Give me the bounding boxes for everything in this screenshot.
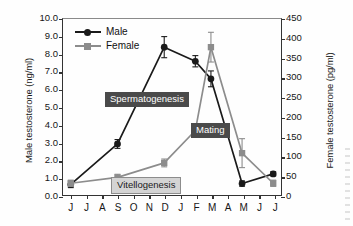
- right-tick-mark: [281, 118, 285, 119]
- right-tick-label: 300: [286, 71, 302, 82]
- scan-artifact: [345, 148, 350, 220]
- right-tick-label: 200: [286, 111, 302, 122]
- left-tick-label: 1.0: [45, 172, 58, 183]
- right-tick-mark: [281, 197, 285, 198]
- left-tick-label: 7.0: [45, 65, 58, 76]
- x-tick-mark: [212, 195, 213, 199]
- data-point-marker: [192, 58, 199, 65]
- left-tick-label: 2.0: [45, 154, 58, 165]
- data-point-marker: [208, 75, 215, 82]
- right-axis-title: Female testosterone (pg/ml): [324, 31, 335, 191]
- left-tick-label: 4.0: [45, 119, 58, 130]
- x-tick-label: S: [115, 202, 122, 213]
- x-tick-mark: [134, 195, 135, 199]
- right-tick-label: 400: [286, 32, 302, 43]
- left-tick-label: 8.0: [45, 48, 58, 59]
- left-tick-mark: [59, 197, 63, 198]
- left-tick-label: 9.0: [45, 30, 58, 41]
- legend-label-male: Male: [106, 25, 128, 39]
- left-tick-label: 3.0: [45, 137, 58, 148]
- right-tick-label: 350: [286, 52, 302, 63]
- legend-label-female: Female: [106, 39, 139, 53]
- x-tick-mark: [259, 195, 260, 199]
- x-tick-mark: [165, 195, 166, 199]
- x-tick-label: J: [257, 202, 262, 213]
- series-male: [67, 37, 276, 188]
- series-line: [71, 47, 273, 183]
- left-tick-label: 5.0: [45, 101, 58, 112]
- x-tick-mark: [71, 195, 72, 199]
- x-tick-mark: [102, 195, 103, 199]
- x-tick-mark: [118, 195, 119, 199]
- right-tick-mark: [281, 177, 285, 178]
- right-tick-label: 50: [286, 170, 297, 181]
- legend-key-male-icon: [75, 26, 101, 38]
- data-point-marker: [239, 180, 246, 187]
- plot-frame: 0.01.02.03.04.05.06.07.08.09.010.0 05010…: [62, 18, 282, 196]
- x-tick-mark: [181, 195, 182, 199]
- series-female: [68, 32, 277, 186]
- right-tick-label: 150: [286, 131, 302, 142]
- data-point-marker: [161, 160, 167, 166]
- annotation-spermatogenesis: Spermatogenesis: [105, 92, 189, 107]
- x-tick-label: J: [273, 202, 278, 213]
- plot-area: 0.01.02.03.04.05.06.07.08.09.010.0 05010…: [63, 19, 281, 195]
- legend-item-male: Male: [75, 25, 139, 39]
- x-tick-mark: [275, 195, 276, 199]
- right-tick-mark: [281, 19, 285, 20]
- x-tick-label: A: [99, 202, 106, 213]
- x-tick-label: J: [178, 202, 183, 213]
- x-tick-mark: [87, 195, 88, 199]
- x-tick-label: F: [194, 202, 200, 213]
- right-tick-label: 250: [286, 91, 302, 102]
- legend-key-female-icon: [75, 40, 101, 52]
- left-tick-label: 6.0: [45, 83, 58, 94]
- right-tick-mark: [281, 39, 285, 40]
- data-point-marker: [270, 171, 277, 178]
- x-tick-label: M: [240, 202, 248, 213]
- x-tick-label: J: [84, 202, 89, 213]
- data-point-marker: [161, 44, 168, 51]
- chart-figure: Male testosterone (ng/ml) Female testost…: [0, 0, 353, 226]
- legend: Male Female: [75, 25, 139, 53]
- right-tick-label: 450: [286, 12, 302, 23]
- x-tick-label: A: [225, 202, 232, 213]
- x-tick-mark: [149, 195, 150, 199]
- x-tick-mark: [228, 195, 229, 199]
- legend-item-female: Female: [75, 39, 139, 53]
- data-point-marker: [114, 141, 121, 148]
- right-tick-mark: [281, 98, 285, 99]
- data-point-marker: [68, 180, 74, 186]
- left-tick-label: 0.0: [45, 190, 58, 201]
- data-point-marker: [270, 180, 276, 186]
- x-tick-mark: [244, 195, 245, 199]
- x-tick-label: O: [130, 202, 138, 213]
- annotation-mating: Mating: [191, 123, 230, 138]
- annotation-vitellogenesis: Vitellogenesis: [111, 177, 181, 194]
- left-axis-title: Male testosterone (ng/ml): [23, 31, 34, 191]
- right-tick-label: 0: [286, 190, 291, 201]
- right-tick-mark: [281, 59, 285, 60]
- data-point-marker: [208, 44, 214, 50]
- right-tick-mark: [281, 157, 285, 158]
- right-tick-mark: [281, 138, 285, 139]
- x-tick-label: N: [146, 202, 153, 213]
- x-tick-label: D: [162, 202, 169, 213]
- right-tick-mark: [281, 78, 285, 79]
- left-tick-label: 10.0: [40, 12, 59, 23]
- x-tick-mark: [197, 195, 198, 199]
- x-tick-label: J: [68, 202, 73, 213]
- series-line: [71, 47, 273, 184]
- right-tick-label: 100: [286, 150, 302, 161]
- data-point-marker: [239, 150, 245, 156]
- x-tick-label: M: [208, 202, 216, 213]
